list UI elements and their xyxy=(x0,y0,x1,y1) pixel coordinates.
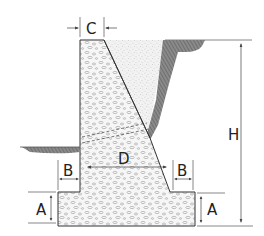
label-b-left: B xyxy=(63,162,73,180)
a-left-arrowhead-t xyxy=(50,195,53,198)
footing-aggregate xyxy=(58,192,195,226)
a-left-arrowhead-b xyxy=(50,218,53,221)
c-arrowhead-right xyxy=(105,27,109,30)
a-right-arrowhead-t xyxy=(200,196,203,199)
a-right-arrowhead-b xyxy=(200,220,203,223)
c-arrowhead-left xyxy=(75,27,79,30)
label-b-right: B xyxy=(177,162,187,180)
label-a-left: A xyxy=(36,201,47,219)
label-d: D xyxy=(118,150,130,168)
b-left-arrowhead-l xyxy=(59,178,62,181)
label-c: C xyxy=(86,20,96,38)
label-a-right: A xyxy=(207,201,218,219)
b-left-arrowhead-r xyxy=(76,178,79,181)
retaining-wall-diagram: C D B B A A H xyxy=(0,0,264,236)
d-arrowhead-right xyxy=(163,166,167,169)
label-h: H xyxy=(228,126,239,144)
b-right-arrowhead-r xyxy=(189,178,192,181)
h-arrowhead-top xyxy=(240,43,243,47)
h-arrowhead-bottom xyxy=(240,219,243,223)
left-ground-hatch xyxy=(22,147,80,153)
